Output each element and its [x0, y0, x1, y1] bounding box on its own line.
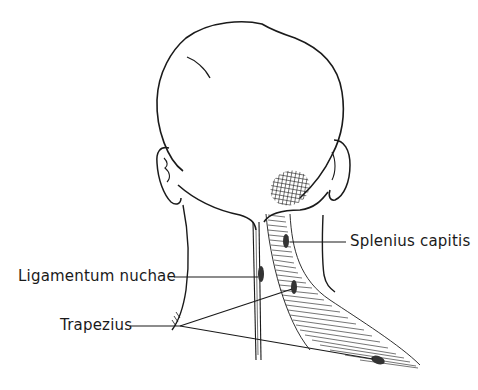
head-outline	[157, 22, 343, 198]
occipital-line	[178, 185, 256, 230]
trigger-point-ligamentum	[258, 266, 264, 282]
anatomy-figure: Splenius capitis Ligamentum nuchae Trape…	[0, 0, 478, 390]
label-trapezius: Trapezius	[60, 316, 132, 334]
trigger-point-splenius	[283, 234, 289, 248]
label-ligamentum-nuchae: Ligamentum nuchae	[18, 267, 176, 285]
trigger-point-trapezius-lower	[370, 354, 386, 366]
hair-part	[187, 57, 210, 78]
trigger-point-trapezius-upper	[291, 280, 297, 294]
right-neck-contour	[322, 215, 335, 292]
hatched-area	[265, 164, 316, 212]
label-splenius-capitis: Splenius capitis	[350, 232, 470, 250]
right-ear	[329, 140, 350, 200]
